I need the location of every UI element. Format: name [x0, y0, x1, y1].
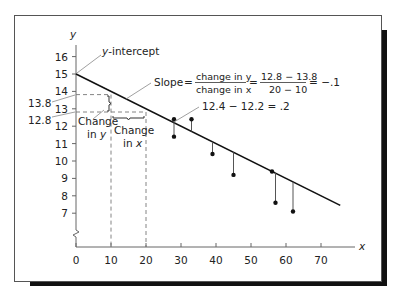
- data-point: [189, 117, 193, 121]
- data-point: [273, 201, 277, 205]
- x-tick-label: 0: [73, 254, 80, 266]
- x-axis-label: x: [358, 240, 366, 252]
- slope-denominator-values: 20 − 10: [269, 84, 307, 95]
- data-point: [231, 173, 235, 177]
- data-point: [291, 209, 295, 213]
- y-tick-label: 8: [61, 190, 68, 202]
- change-in-x-label-2: in x: [123, 137, 143, 149]
- x-tick-label: 70: [314, 254, 327, 266]
- slope-numerator: change in y: [196, 71, 252, 82]
- y-tick-label: 10: [55, 155, 68, 167]
- data-point: [210, 152, 214, 156]
- change-in-y-label-2: in y: [87, 128, 107, 140]
- y-tick-label: 12: [55, 120, 68, 132]
- residual-label: 12.4 − 12.2 = .2: [202, 100, 290, 112]
- y-value-12-8: 12.8: [28, 114, 51, 126]
- x-tick-label: 20: [139, 254, 152, 266]
- y-tick-label: 11: [55, 138, 68, 150]
- x-tick-label: 30: [174, 254, 187, 266]
- change-in-x-label-1: Change: [114, 124, 154, 136]
- y-tick-label: 15: [55, 68, 68, 80]
- slope-equals: =: [184, 76, 193, 88]
- slope-result: = −.1: [309, 76, 340, 88]
- y-tick-label: 13: [55, 103, 68, 115]
- slope-denominator: change in x: [196, 84, 252, 95]
- frame-shadow-right: [382, 30, 387, 286]
- y-value-13-8: 13.8: [28, 97, 51, 109]
- x-tick-label: 10: [104, 254, 117, 266]
- x-tick-label: 50: [244, 254, 257, 266]
- y-intercept-label: y-intercept: [101, 45, 159, 57]
- scatter-chart: 78910111213141516 010203040506070 y x y-…: [0, 0, 395, 298]
- slope-label: Slope: [154, 76, 183, 88]
- y-tick-label: 14: [55, 85, 69, 97]
- x-tick-label: 60: [279, 254, 292, 266]
- data-point: [270, 169, 274, 173]
- data-point: [172, 134, 176, 138]
- y-axis-label: y: [69, 28, 77, 40]
- y-tick-label: 9: [61, 172, 68, 184]
- x-tick-label: 40: [209, 254, 222, 266]
- chart-frame: [15, 16, 382, 282]
- slope-equals-2: =: [249, 76, 258, 88]
- y-tick-label: 7: [61, 207, 68, 219]
- y-tick-label: 16: [55, 51, 69, 63]
- change-in-y-label-1: Change: [78, 115, 118, 127]
